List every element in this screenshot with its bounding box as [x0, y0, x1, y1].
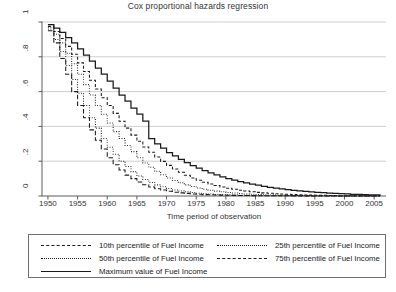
legend-item: 75th percentile of Fuel Income: [215, 252, 380, 265]
legend-item-label: 10th percentile of Fuel Income: [99, 241, 204, 250]
series-line: [48, 25, 380, 196]
legend-line-swatch: [39, 240, 93, 251]
plot-area: Rate of revolutionary avoidance 0.2.4.6.…: [0, 0, 396, 215]
legend-line-swatch: [215, 253, 269, 264]
legend-item: 50th percentile of Fuel Income: [39, 252, 204, 265]
legend-item-label: 25th percentile of Fuel Income: [275, 241, 380, 250]
legend-item: 10th percentile of Fuel Income: [39, 239, 204, 252]
y-tick-label: .6: [21, 79, 30, 101]
y-tick-label: .2: [21, 149, 30, 171]
legend-line-swatch: [39, 266, 93, 277]
series-line: [48, 31, 380, 196]
legend-item: Maximum value of Fuel Income: [39, 265, 207, 278]
series-line: [48, 27, 380, 196]
chart-figure: Cox proportional hazards regression Rate…: [0, 0, 396, 292]
legend-item-label: 75th percentile of Fuel Income: [275, 254, 380, 263]
x-tick-label: 2005: [357, 199, 391, 208]
legend-item-label: 50th percentile of Fuel Income: [99, 254, 204, 263]
y-tick-label: 0: [21, 184, 30, 206]
legend-line-swatch: [39, 253, 93, 264]
series-line: [48, 26, 380, 195]
y-tick-label: .8: [21, 44, 30, 66]
plot-svg: [0, 0, 396, 215]
legend-item: 25th percentile of Fuel Income: [215, 239, 380, 252]
y-tick-label: .4: [21, 114, 30, 136]
legend-line-swatch: [215, 240, 269, 251]
chart-legend: 10th percentile of Fuel Income25th perce…: [28, 234, 386, 278]
series-line: [48, 29, 380, 196]
x-axis-label: Time period of observation: [42, 212, 386, 221]
legend-item-label: Maximum value of Fuel Income: [99, 267, 207, 276]
y-tick-label: 1: [21, 10, 30, 32]
